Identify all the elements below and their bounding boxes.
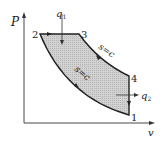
y-axis: [22, 12, 26, 123]
y-axis-label: P: [10, 15, 20, 29]
heat-out-label: q2: [141, 90, 151, 102]
point-3-label: 3: [81, 29, 87, 40]
heat-in-label: q1: [56, 8, 66, 20]
point-4-label: 4: [131, 73, 137, 84]
point-2-label: 2: [32, 29, 38, 40]
x-axis-label: v: [148, 127, 154, 138]
point-1-label: 1: [131, 112, 137, 123]
pv-diagram: P v q1 q2 2 3 4 1 s=c s=c: [0, 0, 162, 141]
